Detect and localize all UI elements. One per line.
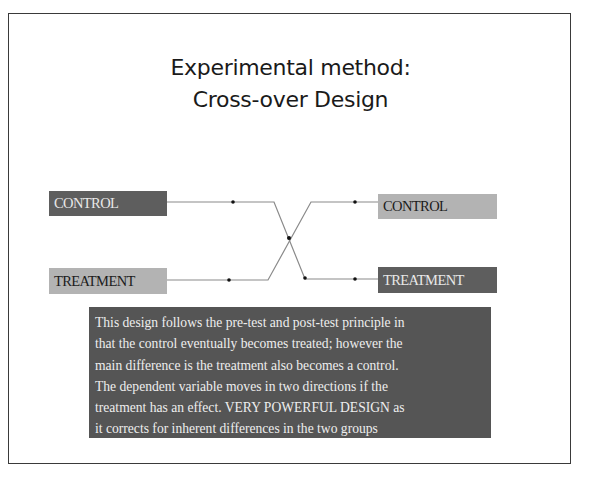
description-box: This design follows the pre-test and pos…	[89, 307, 491, 438]
right-treatment-box: TREATMENT	[378, 267, 497, 293]
description-line: that the control eventually becomes trea…	[95, 333, 487, 354]
right-control-box: CONTROL	[378, 194, 497, 219]
right-treatment-label: TREATMENT	[383, 272, 464, 289]
description-line: treatment has an effect. VERY POWERFUL D…	[95, 397, 487, 418]
left-control-box: CONTROL	[49, 191, 167, 216]
title-line-2: Cross-over Design	[0, 84, 581, 116]
description-line: The dependent variable moves in two dire…	[95, 376, 487, 397]
left-control-label: CONTROL	[54, 195, 118, 212]
description-line: main difference is the treatment also be…	[95, 355, 487, 376]
left-treatment-label: TREATMENT	[54, 273, 135, 290]
description-line: it corrects for inherent differences in …	[95, 418, 487, 439]
slide-title: Experimental method: Cross-over Design	[0, 52, 581, 116]
left-treatment-box: TREATMENT	[49, 268, 167, 294]
right-control-label: CONTROL	[383, 198, 447, 215]
description-line: This design follows the pre-test and pos…	[95, 312, 487, 333]
title-line-1: Experimental method:	[0, 52, 581, 84]
